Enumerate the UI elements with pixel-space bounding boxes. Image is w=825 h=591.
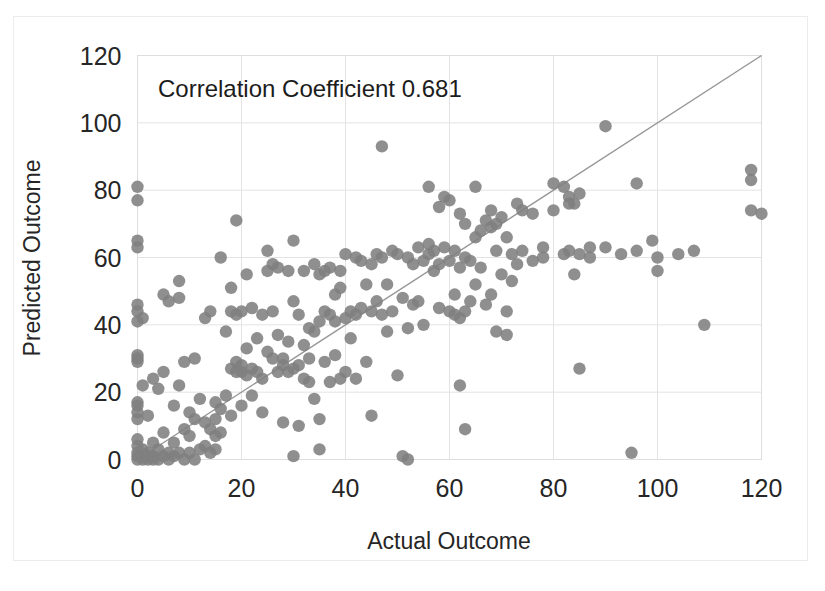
data-point [194,393,206,405]
data-point [547,204,559,216]
data-point [131,194,143,206]
data-point [651,251,663,263]
data-point [215,251,227,263]
y-axis-tick-labels: 020406080100120 [80,42,122,474]
y-axis-title: Predicted Outcome [19,160,45,357]
data-point [485,204,497,216]
data-point [506,275,518,287]
data-point [293,359,305,371]
data-point [376,140,388,152]
x-axis-tick-label: 80 [540,474,568,502]
data-point [402,322,414,334]
data-point [688,245,700,257]
data-point [376,251,388,263]
data-point [698,319,710,331]
data-point [449,288,461,300]
data-point [329,349,341,361]
data-point [319,356,331,368]
data-point [131,241,143,253]
data-point [501,305,513,317]
x-axis-tick-label: 120 [741,474,783,502]
data-point [220,389,232,401]
data-point [303,352,315,364]
data-point [464,295,476,307]
data-point [537,251,549,263]
data-point [173,292,185,304]
data-point [625,447,637,459]
data-point [459,423,471,435]
data-point [334,282,346,294]
data-point [246,389,258,401]
x-axis-title: Actual Outcome [367,528,531,554]
data-point [152,383,164,395]
data-point [469,181,481,193]
data-point [256,406,268,418]
data-point [189,352,201,364]
data-point [631,245,643,257]
data-point [371,295,383,307]
data-point [527,208,539,220]
data-point [313,443,325,455]
data-point [745,174,757,186]
data-point [475,261,487,273]
data-point [215,426,227,438]
data-point [651,265,663,277]
x-axis-tick-label: 60 [436,474,464,502]
data-point [142,410,154,422]
scatter-plot-canvas: 020406080100120 020406080100120 Correlat… [0,0,825,591]
data-point [381,278,393,290]
y-axis-tick-label: 80 [94,176,122,204]
data-point [599,120,611,132]
data-point [282,265,294,277]
data-point [334,265,346,277]
data-point [235,399,247,411]
data-point [256,373,268,385]
data-point [412,295,424,307]
data-point [350,373,362,385]
data-point [417,319,429,331]
data-point [646,234,658,246]
y-axis-tick-label: 120 [80,42,122,70]
data-point [360,278,372,290]
correlation-coefficient-annotation: Correlation Coefficient 0.681 [158,75,462,102]
scatter-chart-figure: 020406080100120 020406080100120 Correlat… [0,0,825,591]
data-point [402,453,414,465]
data-point [246,302,258,314]
data-point [599,241,611,253]
data-point [345,332,357,344]
data-point [501,231,513,243]
data-point [443,194,455,206]
data-point [459,218,471,230]
data-point [277,416,289,428]
data-point [339,366,351,378]
data-point [209,443,221,455]
data-point [287,450,299,462]
data-point [568,268,580,280]
data-point [251,332,263,344]
data-point [272,329,284,341]
data-point [220,325,232,337]
data-point [293,309,305,321]
x-axis-tick-label: 20 [228,474,256,502]
data-point [501,329,513,341]
data-point [584,251,596,263]
data-point [755,208,767,220]
x-axis-tick-label: 100 [637,474,679,502]
data-point [282,335,294,347]
data-point [573,187,585,199]
data-point [225,410,237,422]
data-point [381,325,393,337]
data-point [131,356,143,368]
data-point [293,420,305,432]
data-point [215,403,227,415]
y-axis-tick-label: 60 [94,244,122,272]
data-point [267,305,279,317]
data-point [360,356,372,368]
data-point [615,248,627,260]
data-point [225,282,237,294]
data-point [573,362,585,374]
data-point [313,413,325,425]
data-point [173,275,185,287]
data-point [386,305,398,317]
data-point [391,369,403,381]
